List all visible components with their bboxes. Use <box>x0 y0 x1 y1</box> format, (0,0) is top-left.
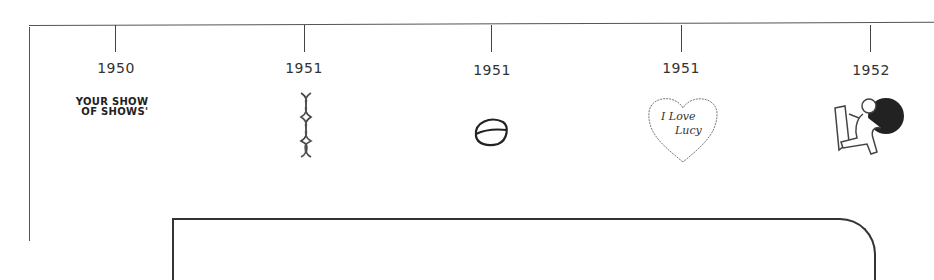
year-label: 1952 <box>852 62 890 78</box>
year-label: 1951 <box>473 62 511 78</box>
timeline-axis <box>29 22 934 26</box>
year-label: 1951 <box>285 60 323 76</box>
heart-text-line-1: I Love <box>661 110 702 124</box>
timeline-frame-left <box>29 27 30 241</box>
timeline-tick-1952 <box>870 25 871 52</box>
heart-transplant-person-icon <box>831 92 909 162</box>
timeline-tick-1951-c <box>681 25 682 52</box>
content-panel <box>172 218 876 280</box>
timeline-tick-1950 <box>115 25 116 52</box>
dna-double-helix-icon <box>296 89 316 163</box>
i-love-lucy-heart-icon: I Love Lucy <box>645 92 721 168</box>
timeline-tick-1951-b <box>491 25 492 52</box>
year-label: 1950 <box>97 60 135 76</box>
logo-line-2: OF SHOWS' <box>76 107 149 117</box>
year-label: 1951 <box>662 60 700 76</box>
timeline-tick-1951-a <box>304 25 305 52</box>
pill-capsule-icon <box>471 114 511 152</box>
your-show-of-shows-logo: YOUR SHOW OF SHOWS' <box>76 97 149 117</box>
heart-text-line-2: Lucy <box>661 124 702 138</box>
